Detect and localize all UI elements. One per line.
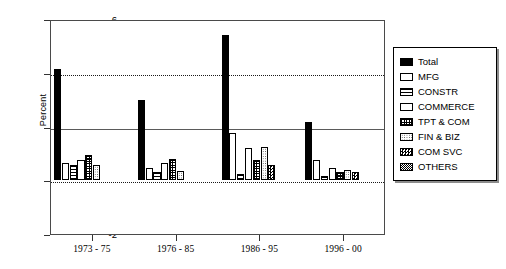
y-axis-title: Percent	[38, 65, 48, 155]
bar	[138, 100, 145, 181]
bar	[177, 171, 184, 180]
y-tick-mark	[44, 235, 50, 236]
legend-swatch-icon	[400, 58, 413, 66]
legend-swatch-icon	[400, 148, 413, 156]
bar	[261, 147, 268, 181]
x-tick-mark	[176, 235, 177, 241]
bar	[93, 165, 100, 180]
legend-item[interactable]: COMMERCE	[400, 99, 491, 114]
bar	[77, 160, 84, 180]
legend-label: COM SVC	[418, 147, 462, 157]
legend-item[interactable]: Total	[400, 54, 491, 69]
legend-swatch-icon	[400, 163, 413, 171]
bar	[161, 163, 168, 180]
legend-swatch-icon	[400, 103, 413, 111]
bar	[245, 148, 252, 180]
legend-swatch-icon	[400, 73, 413, 81]
bar	[268, 165, 275, 180]
bar	[229, 133, 236, 180]
legend-item[interactable]: MFG	[400, 69, 491, 84]
bar	[146, 168, 153, 180]
bar	[54, 69, 61, 181]
x-tick-mark	[259, 235, 260, 241]
legend-item[interactable]: TPT & COM	[400, 114, 491, 129]
plot-area	[50, 20, 385, 235]
bar	[336, 172, 343, 180]
bar	[253, 160, 260, 180]
legend-swatch-icon	[400, 88, 413, 96]
plot-inner	[51, 21, 384, 234]
legend-label: MFG	[418, 72, 439, 82]
bar	[344, 170, 351, 181]
legend-swatch-icon	[400, 118, 413, 126]
gridline-0	[51, 182, 384, 183]
bar	[222, 35, 229, 180]
chart-root: Percent 6420-2 1973 - 751976 - 851986 - …	[0, 0, 506, 269]
bar	[169, 159, 176, 181]
legend-item[interactable]: OTHERS	[400, 159, 491, 174]
x-tick-label: 1976 - 85	[131, 244, 221, 254]
x-tick-mark	[343, 235, 344, 241]
bar	[313, 160, 320, 180]
x-tick-mark	[92, 235, 93, 241]
bar	[85, 155, 92, 181]
bar	[329, 168, 336, 180]
x-tick-label: 1973 - 75	[47, 244, 137, 254]
bar	[70, 165, 77, 180]
legend-label: CONSTR	[418, 87, 458, 97]
legend-box: TotalMFGCONSTRCOMMERCETPT & COMFIN & BIZ…	[393, 47, 497, 181]
legend-item[interactable]: COM SVC	[400, 144, 491, 159]
legend-label: FIN & BIZ	[418, 132, 460, 142]
legend-label: OTHERS	[418, 162, 458, 172]
bar	[321, 176, 328, 180]
legend-item[interactable]: CONSTR	[400, 84, 491, 99]
bar	[305, 122, 312, 180]
bar	[237, 174, 244, 181]
x-tick-label: 1996 - 00	[298, 244, 388, 254]
bar	[62, 163, 69, 180]
bar	[352, 172, 359, 180]
gridline-4	[51, 75, 384, 76]
legend-label: TPT & COM	[418, 117, 470, 127]
bar	[153, 172, 160, 180]
gridline-2	[51, 129, 384, 130]
legend-item[interactable]: FIN & BIZ	[400, 129, 491, 144]
x-tick-label: 1986 - 95	[214, 244, 304, 254]
legend-label: COMMERCE	[418, 102, 474, 112]
legend-swatch-icon	[400, 133, 413, 141]
legend-label: Total	[418, 57, 438, 67]
legend-items: TotalMFGCONSTRCOMMERCETPT & COMFIN & BIZ…	[400, 54, 491, 174]
